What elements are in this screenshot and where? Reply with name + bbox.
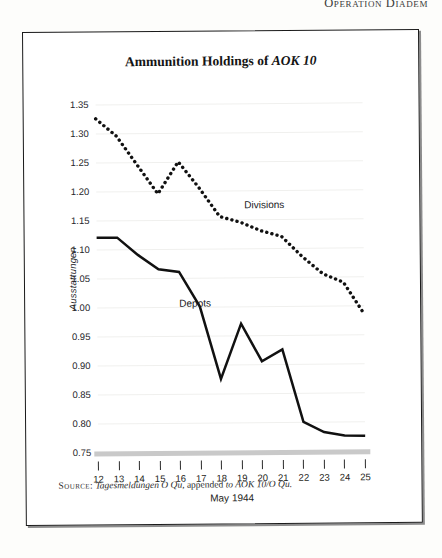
x-axis-tick	[262, 460, 263, 469]
x-axis-tick	[344, 459, 345, 468]
chart-title-unit: AOK 10	[272, 53, 317, 68]
y-axis-tick-label: 1.05	[71, 273, 90, 284]
y-axis-tick-label: 0.75	[73, 447, 92, 458]
x-axis-tick	[139, 461, 140, 470]
x-axis-tick	[201, 461, 202, 470]
series-label-divisions: Divisions	[244, 198, 284, 209]
figure-frame: Ammunition Holdings of AOK 10 Ausstattun…	[22, 29, 423, 526]
x-axis-tick	[365, 459, 366, 468]
x-axis-tick	[324, 460, 325, 469]
source-connector: , appended	[182, 479, 226, 489]
y-axis-tick-label: 1.20	[71, 186, 90, 197]
chart-title-plain: Ammunition Holdings of	[125, 53, 272, 69]
x-axis-tick	[118, 461, 119, 470]
y-axis-tick-label: 0.90	[72, 360, 91, 371]
y-axis-tick-label: 1.10	[71, 244, 90, 255]
series-line-divisions	[96, 117, 365, 316]
y-axis-tick-label: 0.85	[72, 389, 91, 400]
series-line-depots	[97, 236, 366, 438]
x-axis-title: May 1944	[99, 491, 366, 504]
plot-area: Ausstattungen 0.750.800.850.900.951.001.…	[96, 102, 366, 452]
chart-title: Ammunition Holdings of AOK 10	[23, 52, 418, 71]
source-label: Source:	[59, 480, 94, 490]
x-axis-tick	[159, 461, 160, 470]
x-axis-tick	[283, 460, 284, 469]
x-axis-tick-label: 22	[299, 472, 310, 483]
x-axis-tick	[180, 461, 181, 470]
running-header: Operation Diadem	[324, 0, 428, 11]
x-axis-tick-label: 24	[340, 471, 351, 482]
series-plot	[96, 102, 366, 452]
series-label-depots: Depots	[179, 298, 211, 309]
x-axis-tick	[303, 460, 304, 469]
y-axis-tick-label: 1.35	[70, 99, 89, 110]
y-axis-tick-label: 1.00	[72, 302, 91, 313]
y-axis-tick-label: 1.30	[70, 128, 89, 139]
y-axis-tick-label: 0.80	[73, 418, 92, 429]
x-axis-tick	[242, 460, 243, 469]
x-axis-tick-label: 25	[360, 471, 371, 482]
y-axis-tick-label: 0.95	[72, 331, 91, 342]
x-axis-tick	[221, 460, 222, 469]
figure-inner: Ammunition Holdings of AOK 10 Ausstattun…	[23, 30, 422, 525]
source-note: Source: Tagesmeldungen O Qu, appended to…	[59, 479, 293, 491]
y-axis-tick-label: 1.15	[71, 215, 90, 226]
source-citation-2: to AOK 10/O Qu.	[226, 479, 292, 490]
source-citation-1: Tagesmeldungen O Qu	[95, 480, 182, 491]
x-axis-tick	[98, 461, 99, 470]
y-axis-tick-label: 1.25	[70, 157, 89, 168]
x-axis-tick-label: 23	[319, 472, 330, 483]
